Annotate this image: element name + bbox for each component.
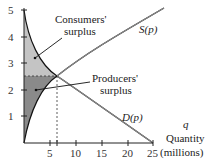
y-tick-2: 2 [8, 84, 14, 96]
consumers-surplus-region [24, 10, 57, 76]
x-tick-25: 25 [147, 147, 159, 159]
producers-surplus-arrow-head [35, 89, 38, 92]
x-axis-title-2: (millions) [160, 146, 204, 159]
x-tick-5: 5 [47, 147, 53, 159]
y-tick-1: 1 [8, 110, 14, 122]
surplus-chart: 5 4 3 2 1 5 10 15 20 25 Consumers' surpl… [0, 0, 210, 167]
x-tick-20: 20 [122, 147, 134, 159]
x-tick-10: 10 [70, 147, 82, 159]
x-axis-title-1: Quantity [166, 132, 205, 144]
consumers-surplus-arrow [35, 38, 62, 58]
x-tick-15: 15 [96, 147, 108, 159]
consumers-surplus-arrow-head [34, 57, 37, 60]
producers-surplus-label-1: Producers' [92, 72, 138, 84]
q-variable-label: q [183, 118, 189, 130]
y-tick-4: 4 [8, 31, 14, 43]
y-tick-5: 5 [8, 4, 14, 16]
producers-surplus-region [24, 76, 57, 143]
demand-label: D(p) [121, 111, 143, 124]
y-tick-3: 3 [8, 57, 14, 69]
consumers-surplus-label-2: surplus [64, 25, 96, 37]
producers-surplus-label-2: surplus [100, 84, 132, 96]
supply-label: S(p) [139, 23, 158, 36]
consumers-surplus-label-1: Consumers' [55, 13, 107, 25]
